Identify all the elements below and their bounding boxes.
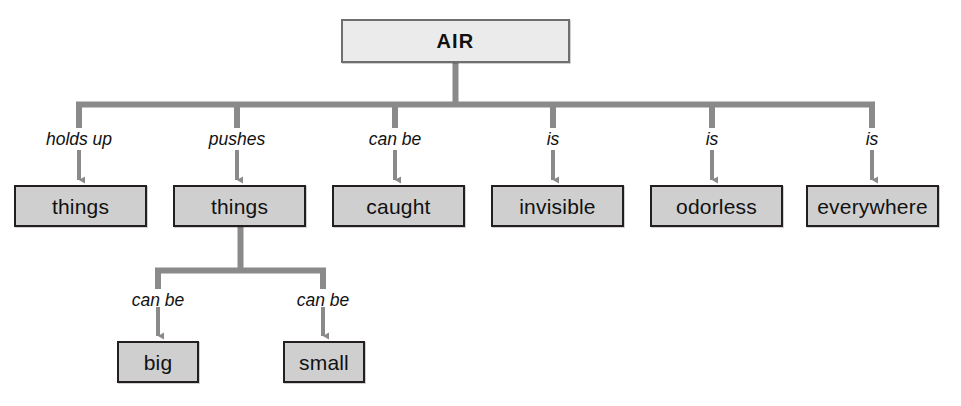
node-big-label: big — [144, 352, 173, 373]
node-caught[interactable]: caught — [332, 185, 465, 227]
node-air[interactable]: AIR — [341, 19, 570, 63]
edge-label-is-everywhere: is — [866, 131, 879, 149]
edge-label-can-be: can be — [369, 131, 422, 149]
node-invisible[interactable]: invisible — [491, 185, 624, 227]
edge-label-pushes: pushes — [209, 131, 265, 149]
node-odorless-label: odorless — [676, 196, 757, 217]
edge-label-can-be-big: can be — [132, 292, 185, 310]
edge-label-is-odorless: is — [706, 131, 719, 149]
node-big[interactable]: big — [117, 341, 199, 383]
node-everywhere-label: everywhere — [817, 196, 928, 217]
node-things-holds-up-label: things — [52, 196, 109, 217]
diagram-canvas: AIR holds up pushes can be is is is thin… — [0, 0, 961, 406]
node-small-label: small — [299, 352, 349, 373]
node-air-label: AIR — [436, 31, 474, 51]
node-invisible-label: invisible — [519, 196, 596, 217]
node-small[interactable]: small — [283, 341, 365, 383]
edge-label-is-invisible: is — [547, 131, 560, 149]
node-caught-label: caught — [366, 196, 430, 217]
node-everywhere[interactable]: everywhere — [806, 185, 939, 227]
edge-label-holds-up: holds up — [46, 131, 112, 149]
node-things-pushes-label: things — [211, 196, 268, 217]
edge-label-can-be-small: can be — [297, 292, 350, 310]
node-odorless[interactable]: odorless — [650, 185, 783, 227]
node-things-pushes[interactable]: things — [173, 185, 306, 227]
node-things-holds-up[interactable]: things — [14, 185, 147, 227]
